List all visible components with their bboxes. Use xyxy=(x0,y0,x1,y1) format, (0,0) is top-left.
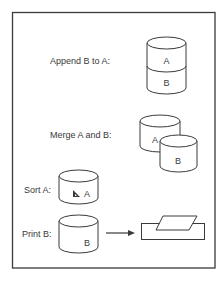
print-cylinder-label: B xyxy=(84,238,90,248)
segment-a-label: A xyxy=(164,56,170,66)
sort-cylinder-label: A xyxy=(84,189,90,199)
cylinder-icon: B xyxy=(59,215,98,253)
segment-b-label: B xyxy=(164,78,170,88)
append-label: Append B to A: xyxy=(50,56,110,66)
cylinder-b-label: B xyxy=(175,156,181,166)
cylinder-with-sort-triangle-icon: A xyxy=(59,170,98,204)
cylinder-a-label: A xyxy=(152,135,158,145)
database-operations-diagram: Append B to A: A B Merge A and B: A B So… xyxy=(0,0,224,284)
merge-label: Merge A and B: xyxy=(50,130,112,140)
stacked-cylinder-icon: A B xyxy=(147,37,186,94)
print-label: Print B: xyxy=(22,229,52,239)
sort-label: Sort A: xyxy=(24,185,51,195)
cylinder-b: B xyxy=(160,135,197,172)
